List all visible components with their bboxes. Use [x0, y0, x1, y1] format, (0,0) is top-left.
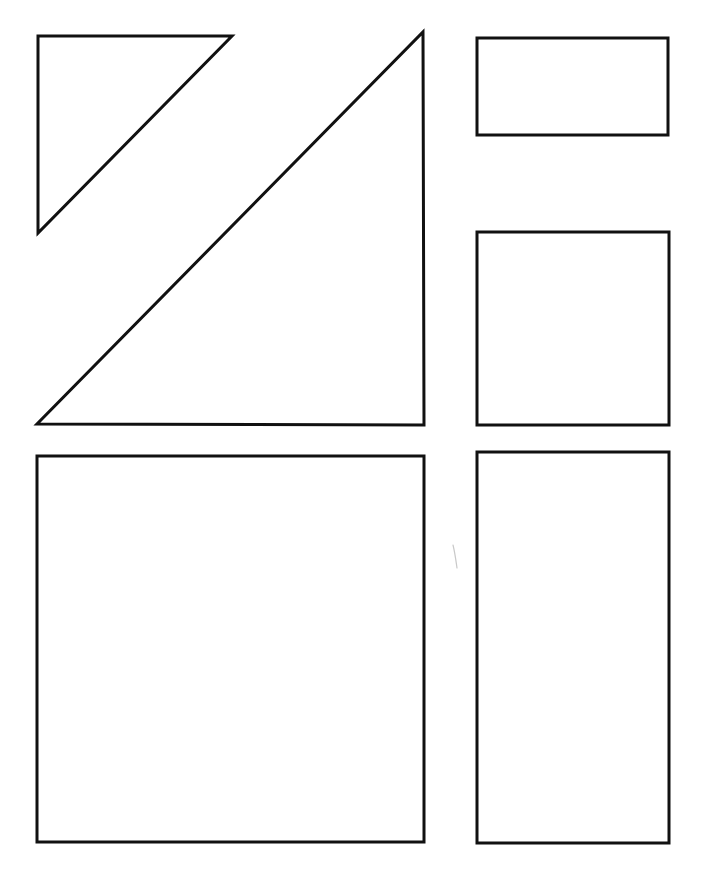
top-right-rectangle[interactable]: [477, 38, 668, 135]
worksheet-page: [0, 0, 703, 874]
shapes-canvas: [0, 0, 703, 874]
bottom-left-square[interactable]: [37, 456, 424, 842]
middle-right-rectangle[interactable]: [477, 232, 669, 425]
bottom-right-rectangle[interactable]: [477, 452, 669, 843]
